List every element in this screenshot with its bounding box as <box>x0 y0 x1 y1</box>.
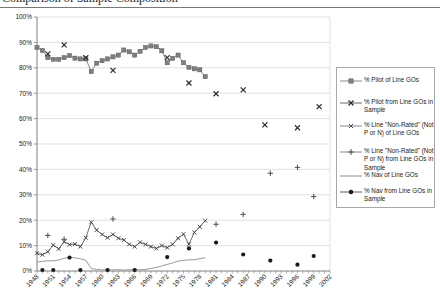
x-axis-tick-label: 1990 <box>252 272 267 287</box>
legend-marker-plus-icon <box>340 148 362 156</box>
legend-marker-circle-icon <box>340 188 362 196</box>
x-axis-tick-label: 1984 <box>220 272 235 287</box>
legend-marker-x-icon <box>340 122 362 130</box>
y-axis-tick-label: 0% <box>23 267 33 274</box>
legend-item-pilot-of-line: % Pilot of Line GOs <box>340 76 436 85</box>
x-axis-tick-label: 1951 <box>41 272 56 287</box>
x-axis-tick-label: 1972 <box>155 272 170 287</box>
x-axis-tick-label: 1957 <box>73 272 88 287</box>
x-axis-tick-label: 1954 <box>57 272 72 287</box>
y-axis-tick-label: 80% <box>19 64 32 71</box>
legend-item-nav-of-line: % Nav of Line GOs <box>340 171 436 180</box>
y-axis-tick-label: 40% <box>19 166 32 173</box>
legend-item-nav-from-sample: % Nav from Line GOs in Sample <box>340 187 436 204</box>
x-axis-tick-label: 1999 <box>301 272 316 287</box>
legend-label: % Pilot from Line GOs in Sample <box>364 98 436 115</box>
x-axis-tick-label: 1993 <box>269 272 284 287</box>
x-axis-tick-label: 1996 <box>285 272 300 287</box>
y-axis-tick-label: 10% <box>19 242 32 249</box>
chart-axes: 0%10%20%30%40%50%60%70%80%90%100%1948195… <box>15 13 333 288</box>
series-nav-of-line-gos <box>37 258 205 270</box>
x-axis-tick-label: 1960 <box>90 272 105 287</box>
chart-legend: % Pilot of Line GOs % Pilot from Line GO… <box>336 67 435 208</box>
y-axis-tick-label: 100% <box>15 13 32 20</box>
x-axis-tick-label: 1969 <box>138 272 153 287</box>
legend-marker-bold-x-icon <box>340 99 362 107</box>
legend-label: % Line "Non-Rated" (Not P or N) of Line … <box>364 121 436 138</box>
x-axis-tick-label: 1987 <box>236 272 251 287</box>
y-axis-tick-label: 50% <box>19 140 32 147</box>
legend-marker-line-icon <box>340 172 362 180</box>
x-axis-tick-label: 2002 <box>318 272 333 287</box>
y-axis-tick-label: 20% <box>19 217 32 224</box>
x-axis-tick-label: 1978 <box>187 272 202 287</box>
x-axis-tick-label: 1966 <box>122 272 137 287</box>
x-axis-tick-label: 1948 <box>25 272 40 287</box>
x-axis-tick-label: 1963 <box>106 272 121 287</box>
y-axis-tick-label: 70% <box>19 90 32 97</box>
series-pilot-from-line-gos-in-sample <box>45 42 321 130</box>
legend-item-pilot-from-sample: % Pilot from Line GOs in Sample <box>340 98 436 115</box>
y-axis-tick-label: 60% <box>19 115 32 122</box>
chart-canvas: Comparison of Sample Composition 0%10%20… <box>0 0 440 303</box>
series-pilot-of-line-gos <box>35 44 207 79</box>
series-line-non-rated-not-p-or-n-of-line-gos <box>35 219 207 257</box>
legend-label: % Nav of Line GOs <box>364 171 436 179</box>
legend-label: % Line "Non-Rated" (Not P or N) from Lin… <box>364 147 436 172</box>
legend-label: % Pilot of Line GOs <box>364 76 436 84</box>
x-axis-tick-label: 1981 <box>204 272 219 287</box>
x-axis-tick-label: 1975 <box>171 272 186 287</box>
series-line-non-rated-not-p-or-n-from-line-gos-in-sample <box>45 165 316 242</box>
legend-marker-square-icon <box>340 77 362 85</box>
legend-item-nonrated-from-sample: % Line "Non-Rated" (Not P or N) from Lin… <box>340 147 436 172</box>
y-axis-tick-label: 30% <box>19 191 32 198</box>
legend-label: % Nav from Line GOs in Sample <box>364 187 436 204</box>
legend-item-nonrated-of-line: % Line "Non-Rated" (Not P or N) of Line … <box>340 121 436 138</box>
y-axis-tick-label: 90% <box>19 39 32 46</box>
